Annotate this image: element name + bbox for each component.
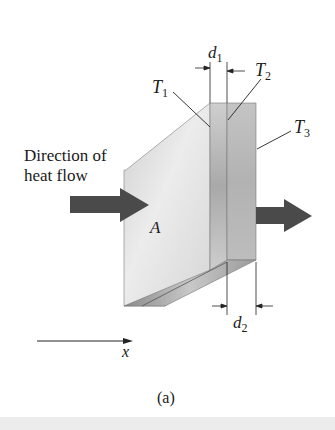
direction-label-line2: heat flow [24, 166, 88, 185]
d1-dimension [195, 62, 245, 103]
bottom-band [0, 417, 335, 430]
d1-label: d1 [208, 43, 223, 65]
heat-out-arrow-icon [256, 199, 312, 232]
t2-label: T2 [255, 60, 271, 83]
layer-1 [210, 103, 227, 270]
direction-label-line1: Direction of [24, 146, 107, 165]
figure-caption: (a) [157, 389, 175, 407]
t1-label: T1 [152, 77, 168, 100]
x-axis-label: x [121, 343, 129, 360]
t3-label: T3 [294, 117, 310, 140]
heat-conduction-diagram: d1 d2 T1 T2 T3 Direction of heat flow A … [0, 0, 335, 430]
d2-label: d2 [233, 313, 248, 335]
x-axis-arrow-icon [37, 338, 133, 344]
layer-2 [227, 103, 256, 260]
t3-leader [257, 131, 291, 149]
area-label: A [149, 218, 161, 237]
